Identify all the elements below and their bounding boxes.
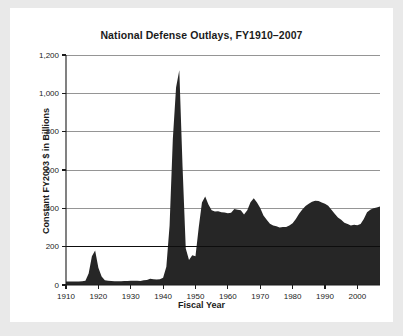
y-tick-label: 1,200 <box>39 51 60 60</box>
x-axis-ticks: 1910192019301940195019601970198019902000 <box>57 285 367 301</box>
area-series-national-defense-outlays <box>66 70 380 285</box>
x-axis-title: Fiscal Year <box>10 300 393 310</box>
figure-card: National Defense Outlays, FY1910–2007 02… <box>10 8 393 322</box>
chart-svg: 02004006008001,0001,200 1910192019301940… <box>10 8 393 322</box>
plot-area: 02004006008001,0001,200 1910192019301940… <box>10 8 393 322</box>
y-axis-title: Constant FY2003 $ in Billions <box>41 71 51 271</box>
y-tick-label: 0 <box>55 281 60 290</box>
